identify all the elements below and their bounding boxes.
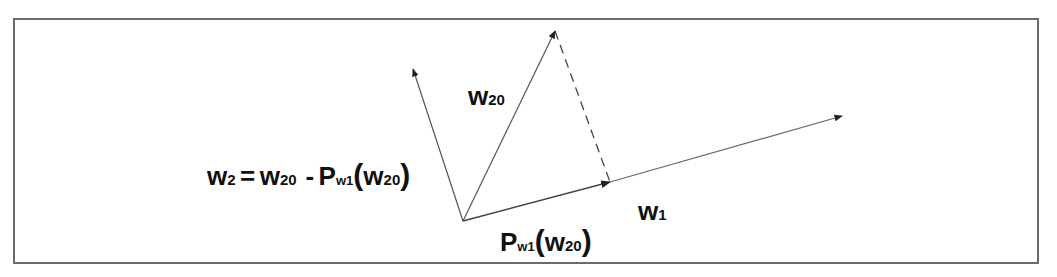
projection-label: Pw1(w20) xyxy=(500,226,592,256)
eq-minus: - xyxy=(305,161,314,191)
eq-w2: w xyxy=(207,161,227,191)
perpendicular-dashed-line xyxy=(555,31,610,182)
w20-label: w20 xyxy=(468,83,505,109)
eq-equals: = xyxy=(240,161,255,191)
vector-projection-arrow xyxy=(463,182,610,221)
vector-w1-arrow xyxy=(610,116,842,182)
vector-w2-arrow xyxy=(413,69,463,221)
eq-P: P xyxy=(319,161,336,191)
vector-w20-arrow xyxy=(463,31,555,221)
w1-label: w1 xyxy=(638,198,667,224)
eq-w20: w xyxy=(260,161,280,191)
equation-label: w2 = w20 - Pw1(w20) xyxy=(207,160,410,190)
